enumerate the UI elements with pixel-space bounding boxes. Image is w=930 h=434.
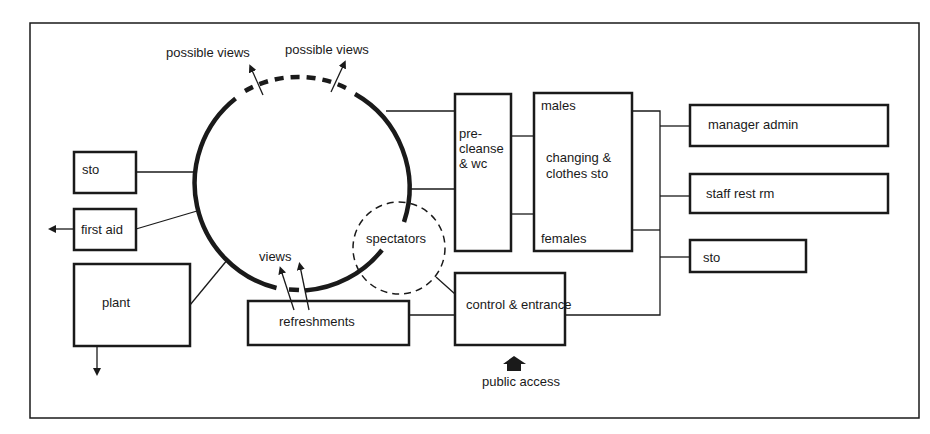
label-possible-views-left: possible views (166, 45, 250, 60)
label-possible-views-right: possible views (285, 42, 369, 57)
label-control-entrance: control & entrance (466, 297, 572, 312)
public-access-block-arrow (503, 356, 526, 371)
room-pre-cleanse (455, 94, 511, 251)
spectators-circle (353, 202, 445, 294)
room-plant (74, 264, 190, 346)
views-arrow-2 (300, 266, 309, 310)
label-sto-left: sto (82, 162, 99, 177)
label-males: males (541, 98, 576, 113)
label-females: females (541, 231, 587, 246)
label-manager-admin: manager admin (708, 117, 798, 132)
label-views: views (259, 249, 292, 264)
diagram-canvas (0, 0, 930, 434)
label-spectators: spectators (366, 231, 426, 246)
label-sto-right: sto (703, 250, 720, 265)
label-pre-cleanse-2: cleanse (459, 141, 504, 156)
pool-dashed-bottom (289, 290, 299, 291)
connectors (136, 111, 690, 315)
label-first-aid: first aid (81, 222, 123, 237)
label-pre-cleanse-3: & wc (459, 156, 487, 171)
label-staff-rest: staff rest rm (706, 186, 774, 201)
label-plant: plant (102, 295, 130, 310)
label-changing-2: clothes sto (546, 166, 608, 181)
label-refreshments: refreshments (279, 314, 355, 329)
label-changing-1: changing & (546, 150, 611, 165)
label-public-access: public access (482, 374, 560, 389)
label-pre-cleanse-1: pre- (459, 126, 482, 141)
